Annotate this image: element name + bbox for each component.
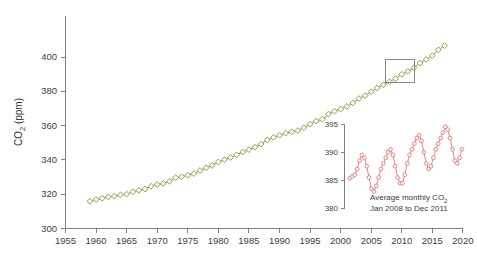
main-data-point: [93, 197, 99, 203]
inset-data-point: [389, 147, 393, 151]
inset-data-point: [458, 156, 462, 160]
y-tick-label: 320: [41, 188, 57, 199]
x-tick-label: 1975: [177, 235, 198, 246]
x-tick-label: 1990: [269, 235, 290, 246]
inset-data-point: [362, 156, 366, 160]
y-tick-label: 340: [41, 154, 57, 165]
x-tick-label: 2000: [330, 235, 351, 246]
main-data-point: [301, 125, 307, 131]
y-axis-title: CO2 (ppm): [13, 98, 27, 146]
x-tick-label: 1955: [55, 235, 76, 246]
x-tick-label: 1995: [299, 235, 320, 246]
main-data-point: [283, 130, 289, 136]
main-data-point: [154, 182, 160, 188]
main-data-point: [246, 147, 252, 153]
x-tick-label: 2015: [422, 235, 443, 246]
y-axis-title-base: CO: [13, 131, 24, 146]
inset-data-point: [391, 153, 395, 157]
main-data-point: [112, 193, 118, 199]
inset-caption-line1-base: Average monthly CO: [370, 193, 444, 202]
main-data-point: [167, 178, 173, 184]
svg-text:Average monthly CO2: Average monthly CO2: [370, 193, 448, 204]
inset-data-point: [408, 153, 412, 157]
main-data-point: [258, 141, 264, 147]
main-data-point: [179, 174, 185, 180]
main-data-point: [203, 165, 209, 171]
main-data-point: [374, 85, 380, 91]
x-tick-label: 2005: [361, 235, 382, 246]
inset-y-tick-label: 390: [325, 148, 339, 157]
co2-keeling-curve-figure: 300 320 340 360 380 400 CO2 (ppm) 1955 1…: [0, 0, 477, 255]
inset-caption: Average monthly CO2 Jan 2008 to Dec 2011: [370, 193, 448, 213]
inset-data-point: [422, 150, 426, 154]
main-data-point: [368, 89, 374, 95]
main-data-point: [240, 149, 246, 155]
inset-y-tick-label: 380: [325, 204, 339, 213]
inset-data-point: [405, 162, 409, 166]
y-axis-ticks: 300 320 340 360 380 400: [41, 51, 65, 234]
main-data-point: [87, 198, 93, 204]
x-tick-label: 2010: [391, 235, 412, 246]
inset-data-point: [448, 136, 452, 140]
main-data-point: [307, 121, 313, 127]
inset-data-point: [374, 184, 378, 188]
inset-data-point: [384, 156, 388, 160]
inset-data-point: [381, 162, 385, 166]
x-tick-label: 1960: [86, 235, 107, 246]
inset-data-point: [441, 131, 445, 135]
main-data-point: [142, 186, 148, 192]
inset-data-point: [455, 162, 459, 166]
main-data-point: [252, 144, 258, 150]
inset-data-point: [412, 142, 416, 146]
inset-data-point: [432, 156, 436, 160]
inset-data-point: [439, 136, 443, 140]
main-data-point: [105, 194, 111, 200]
inset-y-tick-label: 395: [325, 120, 339, 129]
y-tick-label: 400: [41, 51, 57, 62]
main-data-point: [289, 129, 295, 135]
main-data-point: [362, 93, 368, 99]
inset-data-point: [436, 142, 440, 146]
main-data-point: [228, 155, 234, 161]
x-tick-label: 2020: [452, 235, 473, 246]
main-data-point: [136, 188, 142, 194]
svg-text:CO2 (ppm): CO2 (ppm): [13, 98, 27, 146]
main-data-point: [338, 106, 344, 112]
inset-data-point: [367, 176, 371, 180]
x-tick-label: 1965: [116, 235, 137, 246]
x-tick-label: 1985: [238, 235, 259, 246]
x-tick-label: 1980: [208, 235, 229, 246]
y-tick-label: 360: [41, 120, 57, 131]
inset-data-point: [410, 147, 414, 151]
main-data-point: [124, 191, 130, 197]
inset-series-path: [350, 127, 462, 192]
inset-data-series: [348, 125, 464, 194]
main-data-point: [99, 195, 105, 201]
inset-data-point: [403, 173, 407, 177]
inset-data-point: [446, 128, 450, 132]
inset-data-point: [377, 176, 381, 180]
inset-data-point: [424, 162, 428, 166]
inset-data-point: [396, 176, 400, 180]
inset-data-point: [429, 164, 433, 168]
inset-data-point: [365, 164, 369, 168]
inset-y-tick-label: 385: [325, 176, 339, 185]
inset-data-point: [379, 167, 383, 171]
main-data-point: [222, 157, 228, 163]
main-data-point: [209, 162, 215, 168]
x-tick-label: 1970: [147, 235, 168, 246]
main-data-point: [405, 69, 411, 75]
main-data-point: [270, 135, 276, 141]
main-data-point: [148, 183, 154, 189]
main-data-point: [185, 172, 191, 178]
inset-caption-line2: Jan 2008 to Dec 2011: [370, 204, 448, 213]
inset-data-point: [417, 133, 421, 137]
inset-data-point: [401, 181, 405, 185]
main-data-point: [191, 171, 197, 177]
y-axis-title-unit: (ppm): [13, 98, 24, 127]
inset-data-point: [353, 173, 357, 177]
main-data-point: [442, 43, 448, 49]
main-data-point: [197, 168, 203, 174]
chart-canvas: 300 320 340 360 380 400 CO2 (ppm) 1955 1…: [0, 0, 477, 255]
inset-data-point: [434, 147, 438, 151]
